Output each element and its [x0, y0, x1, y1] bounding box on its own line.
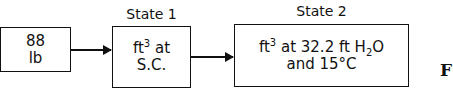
mass-box: 88 lb [0, 27, 71, 72]
state2-box: ft3 at 32.2 ft H2O and 15°C [234, 24, 409, 87]
state1-condition: S.C. [137, 57, 167, 74]
mass-value: 88 [26, 33, 45, 50]
mass-unit: lb [29, 50, 43, 67]
caption-fragment: F [440, 60, 452, 80]
state2-condition: and 15°C [286, 56, 356, 73]
state2-volume-label: ft3 at 32.2 ft H2O [259, 39, 384, 56]
state1-box: ft3 at S.C. [112, 26, 191, 88]
state1-title: State 1 [112, 6, 191, 22]
arrow-mass-to-state1 [71, 49, 111, 51]
state1-volume-label: ft3 at [133, 40, 170, 57]
state2-title: State 2 [234, 3, 409, 19]
arrow-state1-to-state2 [191, 56, 233, 58]
